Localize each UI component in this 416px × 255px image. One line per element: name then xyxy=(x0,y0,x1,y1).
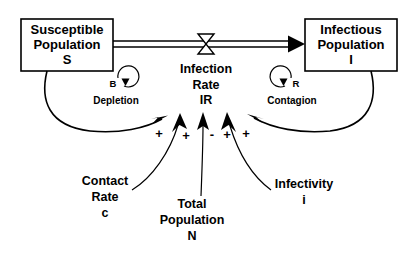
sign-susceptible-link: + xyxy=(155,126,163,141)
stock-susceptible-label-line3: S xyxy=(63,52,72,67)
causal-loop-diagram: Susceptible Population S Infectious Popu… xyxy=(0,0,416,255)
flow-arrowhead-icon xyxy=(288,36,305,53)
flow-label-line2: Rate xyxy=(192,78,219,92)
balancing-loop-name: Depletion xyxy=(93,95,139,106)
causal-link-contact-rate-to-rate[interactable]: + xyxy=(132,113,190,190)
loop-marker-balancing[interactable]: B Depletion xyxy=(93,66,139,106)
stock-susceptible-population[interactable]: Susceptible Population S xyxy=(21,19,113,71)
causal-link-susceptible-to-rate[interactable]: + xyxy=(45,71,168,141)
stock-infectious-label-line3: I xyxy=(349,52,353,67)
aux-infectivity-line1: Infectivity xyxy=(275,177,333,191)
stock-infectious-label-line2: Population xyxy=(317,37,384,52)
causal-link-infectious-to-rate[interactable]: + xyxy=(242,71,373,141)
reinforcing-loop-arc-icon xyxy=(270,66,291,87)
balancing-loop-letter: B xyxy=(110,78,117,89)
stock-infectious-population[interactable]: Infectious Population I xyxy=(305,19,397,71)
aux-contact-rate-line2: Rate xyxy=(91,190,118,204)
stock-infectious-label-line1: Infectious xyxy=(320,22,381,37)
reinforcing-loop-letter: R xyxy=(293,78,300,89)
loop-marker-reinforcing[interactable]: R Contagion xyxy=(267,66,316,106)
sign-infectivity-link: + xyxy=(223,127,231,142)
reinforcing-loop-arrowhead-icon xyxy=(280,79,288,87)
flow-valve-icon[interactable] xyxy=(198,34,214,54)
aux-total-population-line1: Total xyxy=(178,197,207,211)
link-curve-infectivity xyxy=(230,126,271,190)
aux-contact-rate-line3: c xyxy=(102,206,109,220)
stock-susceptible-label-line2: Population xyxy=(33,37,100,52)
flow-pipe-infection-rate[interactable] xyxy=(113,34,305,54)
aux-infectivity[interactable]: Infectivity i xyxy=(275,177,333,207)
stock-susceptible-label-line1: Susceptible xyxy=(31,22,104,37)
link-arrowhead-susceptible-icon xyxy=(151,116,168,125)
sign-contact-rate-link: + xyxy=(182,128,190,143)
diagram-canvas: Susceptible Population S Infectious Popu… xyxy=(0,0,416,255)
causal-link-total-population-to-rate[interactable]: - xyxy=(197,112,214,196)
aux-contact-rate[interactable]: Contact Rate c xyxy=(82,174,129,220)
aux-total-population-line2: Population xyxy=(160,213,225,227)
causal-link-infectivity-to-rate[interactable]: + xyxy=(221,112,271,190)
balancing-loop-arrowhead-icon xyxy=(122,79,130,87)
aux-total-population-line3: N xyxy=(187,229,196,243)
aux-contact-rate-line1: Contact xyxy=(82,174,129,188)
flow-label-infection-rate: Infection Rate IR xyxy=(180,62,232,107)
sign-total-population-link: - xyxy=(210,127,214,142)
link-curve-total-population xyxy=(201,126,203,196)
flow-label-line1: Infection xyxy=(180,62,232,76)
aux-infectivity-line2: i xyxy=(302,193,305,207)
sign-infectious-link: + xyxy=(242,126,250,141)
balancing-loop-arc-icon xyxy=(118,66,139,87)
reinforcing-loop-name: Contagion xyxy=(267,95,316,106)
aux-total-population[interactable]: Total Population N xyxy=(160,197,225,243)
flow-label-line3: IR xyxy=(200,93,213,107)
